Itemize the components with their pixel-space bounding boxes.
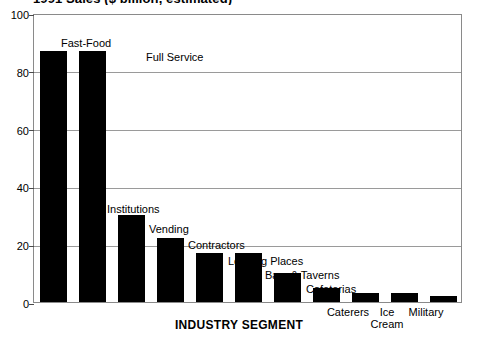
bar-ice-cream[interactable] — [391, 293, 418, 302]
bar-institutions[interactable] — [118, 215, 145, 302]
bar-label-full-service: Full Service — [146, 51, 203, 63]
plot-area: 020406080100 Fast-FoodFull ServiceInstit… — [33, 14, 462, 303]
y-tick-mark-60 — [29, 130, 34, 131]
bar-label-vending: Vending — [149, 223, 189, 235]
bar-label-cafeterias: Cafeterias — [306, 283, 356, 295]
y-tick-mark-100 — [29, 15, 34, 16]
bar-label-bars-taverns: Bars & Taverns — [265, 269, 339, 281]
bar-military[interactable] — [430, 296, 457, 302]
bar-label-contractors: Contractors — [188, 239, 245, 251]
y-tick-label-0: 0 — [23, 298, 29, 310]
bar-contractors[interactable] — [196, 253, 223, 302]
bar-full-service[interactable] — [79, 51, 106, 302]
bar-label-institutions: Institutions — [107, 203, 160, 215]
bar-vending[interactable] — [157, 238, 184, 302]
y-tick-mark-0 — [29, 304, 34, 305]
bar-label-lodging-places: Lodging Places — [228, 255, 303, 267]
y-tick-label-80: 80 — [17, 67, 29, 79]
y-tick-label-20: 20 — [17, 240, 29, 252]
x-axis-title: INDUSTRY SEGMENT — [0, 318, 478, 332]
y-tick-label-60: 60 — [17, 125, 29, 137]
y-tick-mark-20 — [29, 246, 34, 247]
y-tick-label-40: 40 — [17, 182, 29, 194]
y-tick-mark-80 — [29, 72, 34, 73]
y-tick-mark-40 — [29, 188, 34, 189]
chart-title: 1991 Sales ($ billion, estimated) — [33, 0, 232, 5]
y-tick-label-100: 100 — [11, 9, 29, 21]
bar-fast-food[interactable] — [40, 51, 67, 302]
bar-label-fast-food: Fast-Food — [61, 37, 111, 49]
bar-label-military: Military — [381, 306, 471, 318]
